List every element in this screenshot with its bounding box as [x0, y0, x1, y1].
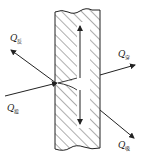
reflected-arrow	[11, 50, 56, 83]
label-incident: Q投	[7, 104, 19, 114]
q-subscript: 反	[17, 38, 22, 44]
label-absorbed: Q吸	[118, 141, 130, 151]
incident-arrow	[5, 83, 57, 96]
label-reflected: Q反	[10, 34, 22, 44]
absorbed-arrow	[100, 110, 134, 138]
transmitted-arrow	[100, 65, 135, 75]
q-subscript: 吸	[125, 145, 130, 151]
wall-radiation-diagram	[0, 0, 141, 155]
wall	[55, 9, 100, 151]
label-transmitted: Q穿	[118, 50, 130, 60]
q-subscript: 穿	[125, 54, 130, 60]
q-subscript: 投	[14, 108, 19, 114]
